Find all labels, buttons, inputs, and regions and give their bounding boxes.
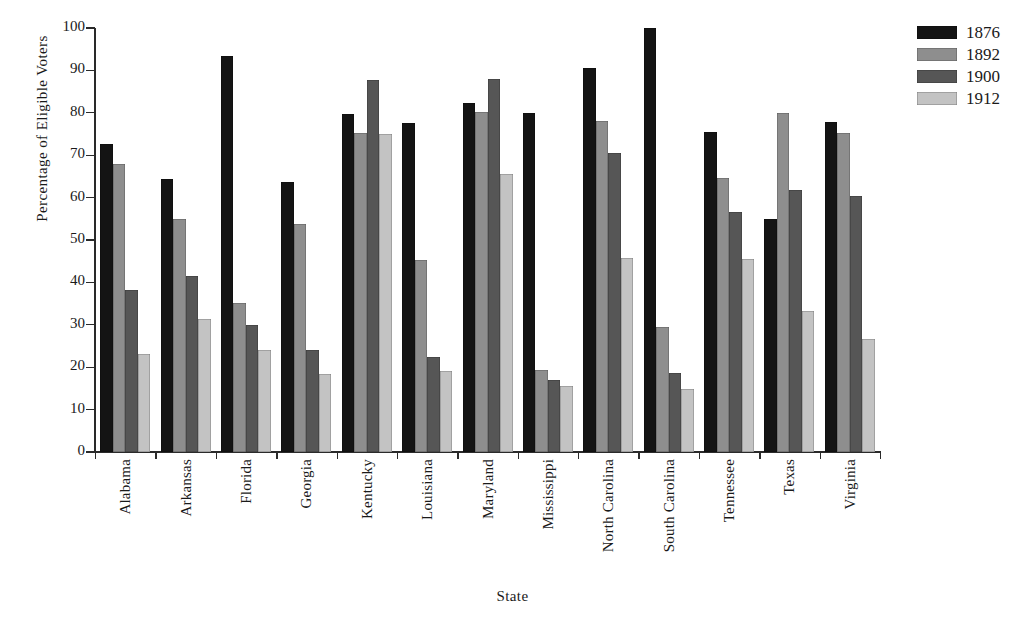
legend-item-label: 1912 — [966, 90, 1000, 107]
bar-group — [578, 28, 638, 452]
bar-1876 — [342, 114, 355, 452]
bar-1900 — [608, 153, 621, 452]
bar-group — [699, 28, 759, 452]
x-axis-category: Florida — [216, 455, 276, 575]
bar-1912 — [500, 174, 513, 452]
bar-1900 — [246, 325, 259, 452]
x-axis-category-label: Texas — [781, 459, 798, 495]
bar-1876 — [463, 103, 476, 452]
y-axis-tick-label: 10 — [43, 400, 85, 417]
y-axis-tick — [86, 112, 95, 113]
x-axis-category-label: North Carolina — [600, 459, 617, 552]
legend-item-1912[interactable]: 1912 — [917, 90, 1000, 107]
x-axis-category-label: Virginia — [841, 459, 858, 509]
x-axis-category: Mississippi — [518, 455, 578, 575]
bar-1876 — [281, 182, 294, 452]
bar-1900 — [850, 196, 863, 452]
legend-item-label: 1900 — [966, 68, 1000, 85]
y-axis-tick-label: 100 — [43, 18, 85, 35]
legend-item-label: 1876 — [966, 24, 1000, 41]
legend-item-1900[interactable]: 1900 — [917, 68, 1000, 85]
x-axis-category: Virginia — [820, 455, 880, 575]
bar-1876 — [583, 68, 596, 452]
x-axis-category-label: Maryland — [479, 459, 496, 519]
x-axis-category-label: Louisiana — [419, 459, 436, 520]
bar-1876 — [523, 113, 536, 452]
legend-item-1892[interactable]: 1892 — [917, 46, 1000, 63]
y-axis-tick — [86, 70, 95, 71]
x-axis-category: Texas — [759, 455, 819, 575]
legend-item-1876[interactable]: 1876 — [917, 24, 1000, 41]
legend: 1876189219001912 — [917, 24, 1000, 107]
y-axis-tick-label: 90 — [43, 60, 85, 77]
bar-1900 — [367, 80, 380, 452]
y-axis-tick-label: 60 — [43, 188, 85, 205]
bar-1900 — [427, 357, 440, 452]
bar-group — [155, 28, 215, 452]
bar-1912 — [258, 350, 271, 452]
bar-1892 — [173, 219, 186, 452]
bar-1912 — [742, 259, 755, 452]
bar-group — [276, 28, 336, 452]
bar-group — [337, 28, 397, 452]
x-axis-category-label: Florida — [237, 459, 254, 504]
x-axis-category-label: Tennessee — [721, 459, 738, 522]
y-axis-tick-label: 30 — [43, 315, 85, 332]
bar-1900 — [186, 276, 199, 452]
bar-group — [518, 28, 578, 452]
bar-1912 — [440, 371, 453, 452]
bar-1912 — [681, 389, 694, 452]
bar-1892 — [415, 260, 428, 452]
bar-1892 — [535, 370, 548, 452]
bar-group — [216, 28, 276, 452]
legend-item-label: 1892 — [966, 46, 1000, 63]
bar-1876 — [644, 28, 657, 452]
bar-1912 — [862, 339, 875, 452]
y-axis-tick — [86, 197, 95, 198]
bar-group — [95, 28, 155, 452]
bar-group — [397, 28, 457, 452]
bar-1912 — [379, 134, 392, 452]
bar-1900 — [548, 380, 561, 452]
legend-swatch-1900 — [917, 70, 957, 83]
bar-1912 — [802, 311, 815, 452]
x-axis-category: Alabama — [95, 455, 155, 575]
legend-swatch-1912 — [917, 92, 957, 105]
y-axis-tick-label: 80 — [43, 103, 85, 120]
x-axis-category: Kentucky — [337, 455, 397, 575]
bar-1912 — [198, 319, 211, 452]
bar-1900 — [729, 212, 742, 452]
bar-1900 — [789, 190, 802, 452]
legend-swatch-1892 — [917, 48, 957, 61]
bar-groups — [95, 28, 880, 452]
x-axis-category: Louisiana — [397, 455, 457, 575]
bar-1912 — [560, 386, 573, 452]
x-axis-category-labels: AlabamaArkansasFloridaGeorgiaKentuckyLou… — [95, 455, 880, 575]
bar-1912 — [621, 258, 634, 452]
x-axis-category-label: Kentucky — [358, 459, 375, 519]
bar-1900 — [125, 290, 138, 452]
x-axis-category: Arkansas — [155, 455, 215, 575]
bar-1892 — [354, 133, 367, 452]
plot-area: 0102030405060708090100 — [95, 28, 880, 452]
bar-1876 — [825, 122, 838, 452]
legend-swatch-1876 — [917, 26, 957, 39]
bar-1876 — [704, 132, 717, 452]
bar-1892 — [294, 224, 307, 452]
x-axis-category-label: Georgia — [298, 459, 315, 508]
bar-group — [759, 28, 819, 452]
y-axis-tick-label: 70 — [43, 145, 85, 162]
x-axis-category: South Carolina — [639, 455, 699, 575]
bar-1892 — [837, 133, 850, 452]
bar-1900 — [669, 373, 682, 452]
bar-group — [820, 28, 880, 452]
bar-1876 — [764, 219, 777, 452]
x-axis-category-label: Mississippi — [539, 459, 556, 530]
y-axis-tick — [86, 324, 95, 325]
bar-1876 — [161, 179, 174, 452]
y-axis-tick-label: 40 — [43, 272, 85, 289]
bar-1892 — [233, 303, 246, 452]
y-axis-tick — [86, 27, 95, 28]
bar-1892 — [475, 112, 488, 452]
y-axis-tick-label: 0 — [43, 442, 85, 459]
